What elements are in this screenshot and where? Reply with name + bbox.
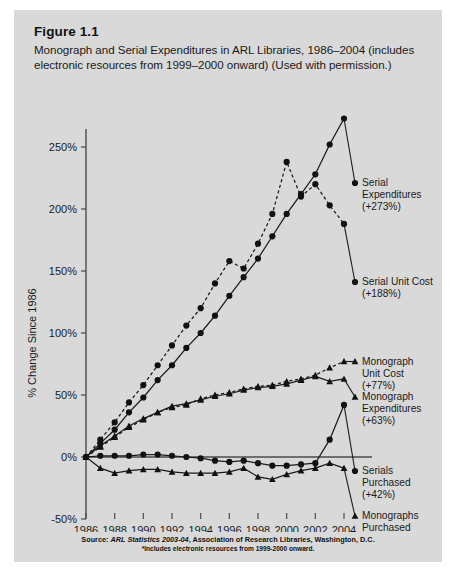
- y-tick-label: 200%: [49, 203, 77, 215]
- data-point: [298, 194, 304, 200]
- data-point: [298, 461, 304, 467]
- source-prefix: Source:: [81, 535, 110, 544]
- series-label-marker: [352, 468, 358, 474]
- series-label-1: Serial Unit Cost: [362, 276, 433, 287]
- data-point: [255, 241, 261, 247]
- data-point: [284, 159, 290, 165]
- data-point: [284, 211, 290, 217]
- source-suffix: , Association of Research Libraries, Was…: [189, 535, 375, 544]
- y-axis-title: % Change Since 1986: [26, 288, 38, 397]
- series-label-4-line2: Purchased: [362, 477, 411, 488]
- data-point: [255, 256, 261, 262]
- series-label-2-line2: Unit Cost: [362, 368, 404, 379]
- data-point: [240, 465, 247, 471]
- data-point: [284, 463, 290, 469]
- chart-plot-area: -50%0%50%100%150%200%250%% Change Since …: [14, 82, 442, 532]
- series-change-1: (+188%): [362, 288, 401, 299]
- data-point: [183, 345, 189, 351]
- data-point: [97, 437, 103, 443]
- data-point: [169, 342, 175, 348]
- figure-header: Figure 1.1 Monograph and Serial Expendit…: [34, 24, 426, 72]
- data-point: [112, 453, 118, 459]
- x-tick-label: 2002: [303, 524, 327, 532]
- data-point: [155, 362, 161, 368]
- x-tick-label: 1994: [188, 524, 212, 532]
- data-point: [97, 453, 103, 459]
- source-line-2: *Includes electronic resources from 1999…: [14, 544, 442, 553]
- series-line-2: [86, 362, 344, 457]
- series-leader-1: [344, 224, 355, 282]
- series-label-0: Serial: [362, 177, 388, 188]
- series-label-5-line2: Purchased: [362, 522, 411, 532]
- data-point: [269, 211, 275, 217]
- y-tick-label: 0%: [61, 451, 77, 463]
- data-point: [327, 141, 333, 147]
- data-point: [112, 419, 118, 425]
- figure-caption: Monograph and Serial Expenditures in ARL…: [34, 42, 426, 72]
- y-tick-label: 50%: [55, 389, 77, 401]
- data-point: [226, 258, 232, 264]
- data-point: [198, 455, 204, 461]
- data-point: [212, 458, 218, 464]
- figure-panel: Figure 1.1 Monograph and Serial Expendit…: [14, 10, 442, 562]
- series-label-5: Monographs: [362, 510, 419, 521]
- data-point: [326, 460, 333, 466]
- data-point: [155, 451, 161, 457]
- series-leader-3: [344, 379, 355, 397]
- x-tick-label: 2004: [332, 524, 356, 532]
- series-label-0-line2: Expenditures: [362, 189, 421, 200]
- data-point: [341, 375, 348, 381]
- data-point: [226, 293, 232, 299]
- series-label-marker: [352, 180, 358, 186]
- data-point: [312, 181, 318, 187]
- data-point: [183, 322, 189, 328]
- series-label-3-line2: Expenditures: [362, 403, 421, 414]
- series-change-4: (+42%): [362, 489, 395, 500]
- y-tick-label: 100%: [49, 327, 77, 339]
- data-point: [327, 202, 333, 208]
- y-tick-label: 250%: [49, 141, 77, 153]
- x-tick-label: 1990: [131, 524, 155, 532]
- series-line-0: [86, 118, 344, 457]
- series-label-marker: [352, 513, 359, 519]
- data-point: [169, 453, 175, 459]
- x-tick-label: 1986: [74, 524, 98, 532]
- data-point: [198, 330, 204, 336]
- source-note: Source: ARL Statistics 2003-04, Associat…: [14, 535, 442, 553]
- source-title: ARL Statistics 2003-04: [111, 535, 189, 544]
- x-tick-label: 1998: [246, 524, 270, 532]
- series-change-2: (+77%): [362, 380, 395, 391]
- series-leader-0: [344, 119, 355, 184]
- data-point: [140, 382, 146, 388]
- x-tick-label: 1992: [160, 524, 184, 532]
- source-line-1: Source: ARL Statistics 2003-04, Associat…: [14, 535, 442, 544]
- series-label-2: Monograph: [362, 356, 414, 367]
- data-point: [241, 265, 247, 271]
- data-point: [112, 427, 118, 433]
- data-point: [126, 409, 132, 415]
- x-tick-label: 1988: [102, 524, 126, 532]
- data-point: [126, 399, 132, 405]
- data-point: [327, 437, 333, 443]
- data-point: [140, 394, 146, 400]
- series-label-marker: [352, 279, 358, 285]
- data-point: [241, 458, 247, 464]
- data-point: [154, 409, 161, 415]
- series-leader-4: [344, 405, 355, 471]
- data-point: [241, 274, 247, 280]
- series-label-4: Serials: [362, 465, 393, 476]
- data-point: [126, 453, 132, 459]
- data-point: [312, 171, 318, 177]
- data-point: [198, 305, 204, 311]
- series-leader-5: [344, 468, 355, 516]
- data-point: [155, 377, 161, 383]
- x-tick-label: 2000: [274, 524, 298, 532]
- y-tick-label: 150%: [49, 265, 77, 277]
- data-point: [212, 280, 218, 286]
- series-change-0: (+273%): [362, 201, 401, 212]
- series-line-1: [86, 162, 344, 457]
- series-label-marker: [352, 394, 359, 400]
- data-point: [255, 473, 262, 479]
- data-point: [226, 459, 232, 465]
- figure-number: Figure 1.1: [34, 24, 426, 40]
